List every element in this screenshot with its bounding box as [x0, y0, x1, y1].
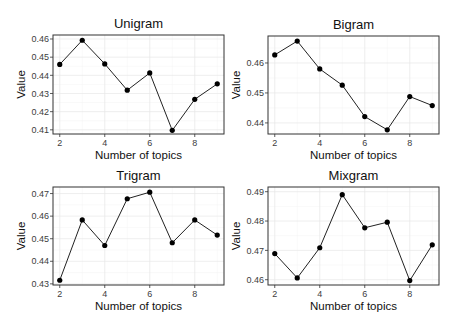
x-tick-label: 4	[102, 289, 107, 299]
data-point	[80, 217, 85, 222]
x-axis: 2468	[272, 285, 412, 299]
data-point	[430, 242, 435, 247]
data-point	[407, 94, 412, 99]
data-point	[340, 192, 345, 197]
data-point	[147, 190, 152, 195]
x-axis-title: Number of topics	[310, 300, 397, 312]
panel-title: Mixgram	[329, 168, 379, 183]
data-point	[80, 38, 85, 43]
x-axis: 2468	[272, 134, 412, 148]
x-axis: 2468	[57, 134, 197, 148]
x-tick-label: 2	[272, 138, 277, 148]
data-point	[192, 217, 197, 222]
y-axis-title: Value	[15, 222, 27, 251]
x-tick-label: 6	[362, 289, 367, 299]
data-point	[385, 220, 390, 225]
data-point	[362, 114, 367, 119]
y-tick-label: 0.43	[31, 279, 49, 289]
panel-title: Unigram	[114, 16, 163, 31]
y-tick-label: 0.45	[31, 234, 49, 244]
y-axis: 0.460.470.480.49	[246, 187, 268, 285]
y-tick-label: 0.48	[246, 216, 264, 226]
y-tick-label: 0.47	[246, 246, 264, 256]
data-point	[430, 103, 435, 108]
data-point	[170, 240, 175, 245]
x-axis-title: Number of topics	[310, 149, 397, 161]
x-tick-label: 8	[407, 289, 412, 299]
x-tick-label: 4	[317, 138, 322, 148]
y-tick-label: 0.46	[31, 211, 49, 221]
data-point	[385, 127, 390, 132]
y-tick-label: 0.46	[246, 275, 264, 285]
x-tick-label: 8	[407, 138, 412, 148]
panel-title: Bigram	[333, 17, 374, 32]
y-axis: 0.430.440.450.460.47	[31, 189, 53, 289]
figure-canvas: Unigram Number of topics Value 24680.410…	[0, 0, 457, 330]
y-axis-title: Value	[230, 222, 242, 251]
x-tick-label: 6	[362, 138, 367, 148]
x-tick-label: 8	[192, 138, 197, 148]
data-point	[57, 62, 62, 67]
y-tick-label: 0.42	[31, 107, 49, 117]
data-point	[407, 278, 412, 283]
panel-title: Trigram	[116, 168, 160, 183]
data-point	[295, 38, 300, 43]
figure-root: Unigram Number of topics Value 24680.410…	[0, 0, 457, 330]
data-point	[340, 83, 345, 88]
y-axis: 0.440.450.46	[246, 58, 268, 128]
y-axis-title: Value	[230, 71, 242, 100]
data-point	[215, 81, 220, 86]
plot-area	[53, 35, 224, 134]
data-point	[102, 61, 107, 66]
y-tick-label: 0.44	[31, 256, 49, 266]
y-tick-label: 0.44	[31, 71, 49, 81]
y-axis-title: Value	[15, 70, 27, 99]
panel-mixgram: Mixgram Number of topics Value 24680.460…	[230, 168, 439, 312]
y-tick-label: 0.41	[31, 125, 49, 135]
x-tick-label: 8	[192, 289, 197, 299]
data-point	[170, 128, 175, 133]
plot-area	[53, 187, 224, 285]
data-point	[317, 66, 322, 71]
data-point	[317, 245, 322, 250]
data-point	[272, 251, 277, 256]
y-tick-label: 0.47	[31, 189, 49, 199]
plot-area	[268, 36, 439, 134]
data-point	[57, 278, 62, 283]
x-axis-title: Number of topics	[95, 149, 182, 161]
data-point	[147, 70, 152, 75]
y-tick-label: 0.46	[246, 58, 264, 68]
x-tick-label: 4	[317, 289, 322, 299]
x-tick-label: 6	[147, 289, 152, 299]
y-tick-label: 0.46	[31, 34, 49, 44]
data-point	[102, 243, 107, 248]
panel-trigram: Trigram Number of topics Value 24680.430…	[15, 168, 224, 312]
x-tick-label: 6	[147, 138, 152, 148]
panel-bigram: Bigram Number of topics Value 24680.440.…	[230, 17, 439, 161]
y-tick-label: 0.49	[246, 187, 264, 197]
x-tick-label: 2	[272, 289, 277, 299]
y-tick-label: 0.44	[246, 118, 264, 128]
y-axis: 0.410.420.430.440.450.46	[31, 34, 53, 135]
data-point	[362, 225, 367, 230]
plot-area	[268, 187, 439, 285]
x-axis-title: Number of topics	[95, 300, 182, 312]
y-tick-label: 0.45	[31, 52, 49, 62]
panel-unigram: Unigram Number of topics Value 24680.410…	[15, 16, 224, 161]
x-tick-label: 4	[102, 138, 107, 148]
data-point	[215, 232, 220, 237]
y-tick-label: 0.45	[246, 88, 264, 98]
x-axis: 2468	[57, 285, 197, 299]
x-tick-label: 2	[57, 138, 62, 148]
data-point	[192, 97, 197, 102]
data-point	[125, 196, 130, 201]
y-tick-label: 0.43	[31, 89, 49, 99]
x-tick-label: 2	[57, 289, 62, 299]
data-point	[295, 275, 300, 280]
data-point	[272, 52, 277, 57]
data-point	[125, 88, 130, 93]
